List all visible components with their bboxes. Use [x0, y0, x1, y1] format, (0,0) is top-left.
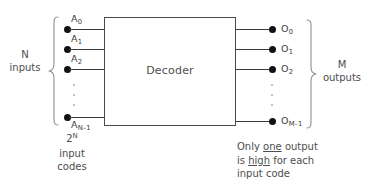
- m-outputs-line2: outputs: [318, 71, 366, 84]
- output-label-o0-base: O: [281, 23, 289, 34]
- output-label-om-1-base: O: [281, 115, 289, 126]
- output-label-om-1-sub: M–1: [289, 120, 303, 128]
- output-note-emph-high: high: [248, 155, 270, 166]
- output-terminal-o1: [269, 46, 276, 53]
- input-label-a2: A2: [71, 53, 82, 64]
- output-terminal-om-1: [269, 118, 276, 125]
- input-label-a2-base: A: [71, 53, 78, 64]
- n-inputs-line1: N: [2, 48, 48, 61]
- n-inputs-annotation: N inputs: [2, 48, 48, 74]
- input-codes-exponent: N: [73, 132, 78, 140]
- input-codes-line3: codes: [44, 160, 100, 173]
- output-note: Only one output is high for each input c…: [237, 140, 318, 181]
- output-wire-o1: [236, 49, 272, 51]
- output-wire-o2: [236, 69, 272, 71]
- input-wire-a0: [69, 29, 105, 31]
- input-label-a0-sub: 0: [78, 18, 82, 26]
- output-label-om-1: OM–1: [281, 115, 302, 126]
- input-ellipsis-icon: [70, 84, 78, 106]
- output-label-o1-base: O: [281, 43, 289, 54]
- input-label-an-1-sub: N–1: [78, 124, 91, 132]
- input-label-an-1: AN–1: [71, 119, 91, 130]
- output-label-o2: O2: [281, 63, 293, 74]
- output-note-part3: is: [237, 155, 248, 166]
- output-note-line3: input code: [237, 167, 318, 181]
- m-outputs-line1: M: [318, 58, 366, 71]
- input-codes-annotation: 2N input codes: [44, 132, 100, 173]
- output-terminal-o2: [269, 66, 276, 73]
- input-label-a1: A1: [71, 33, 82, 44]
- input-codes-line2: input: [44, 147, 100, 160]
- input-codes-line1: 2N: [44, 132, 100, 147]
- input-codes-base: 2: [66, 133, 72, 144]
- output-note-part1: Only: [237, 141, 263, 152]
- output-wire-o0: [236, 29, 272, 31]
- decoder-block-diagram: N inputs 2N input codes A0 A1 A2 AN–1 De…: [0, 0, 366, 186]
- m-outputs-annotation: M outputs: [318, 58, 366, 84]
- output-terminal-o0: [269, 26, 276, 33]
- output-label-o0: O0: [281, 23, 293, 34]
- input-wire-a2: [69, 69, 105, 71]
- output-wire-om-1: [236, 121, 272, 123]
- output-label-o2-base: O: [281, 63, 289, 74]
- input-label-a1-base: A: [71, 33, 78, 44]
- output-label-o2-sub: 2: [289, 68, 293, 76]
- input-wire-a1: [69, 49, 105, 51]
- n-inputs-line2: inputs: [2, 61, 48, 74]
- output-note-line2: is high for each: [237, 154, 318, 168]
- output-label-o0-sub: 0: [289, 28, 293, 36]
- output-note-part4: for each: [270, 155, 314, 166]
- decoder-block-label: Decoder: [104, 64, 236, 77]
- output-label-o1: O1: [281, 43, 293, 54]
- input-wire-an-1: [69, 117, 105, 119]
- input-label-a1-sub: 1: [78, 38, 82, 46]
- input-label-a0-base: A: [71, 13, 78, 24]
- output-note-part2: output: [282, 141, 318, 152]
- output-ellipsis-icon: [268, 84, 276, 106]
- input-label-a0: A0: [71, 13, 82, 24]
- output-note-emph-one: one: [263, 141, 282, 152]
- input-label-an-1-base: A: [71, 119, 78, 130]
- left-brace: [48, 16, 60, 126]
- output-label-o1-sub: 1: [289, 48, 293, 56]
- input-label-a2-sub: 2: [78, 58, 82, 66]
- output-note-line1: Only one output: [237, 140, 318, 154]
- right-brace: [305, 19, 317, 129]
